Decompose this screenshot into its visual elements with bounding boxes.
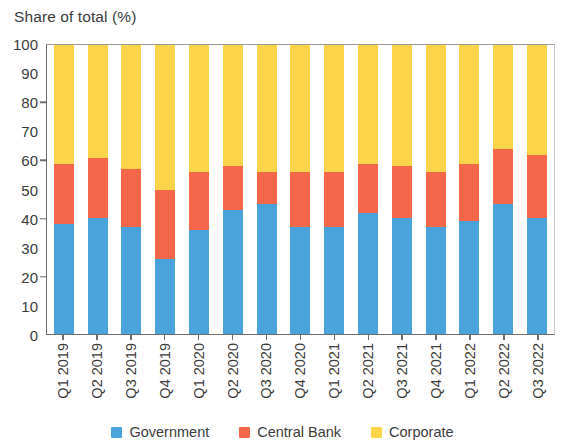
bar-column — [155, 45, 175, 334]
y-axis-tick-label: 10 — [21, 298, 38, 313]
bar-segment-corporate — [426, 45, 446, 172]
y-axis-tick-label: 80 — [21, 95, 38, 110]
x-axis-tickmark — [62, 335, 63, 340]
chart-figure: Share of total (%) 100908070605040302010… — [0, 0, 565, 447]
bar-segment-central-bank — [493, 149, 513, 204]
bar-segment-corporate — [290, 45, 310, 172]
bar-segment-central-bank — [155, 190, 175, 259]
y-axis-tick-label: 90 — [21, 66, 38, 81]
bar-segment-central-bank — [257, 172, 277, 204]
bar-column — [189, 45, 209, 334]
x-axis-label-slot: Q4 2020 — [290, 341, 310, 429]
x-axis-label-slot: Q4 2019 — [155, 341, 175, 429]
bar-segment-corporate — [189, 45, 209, 172]
x-axis-label-slot: Q3 2021 — [392, 341, 412, 429]
x-axis-label-slot: Q3 2020 — [256, 341, 276, 429]
x-axis-tick-label: Q4 2020 — [293, 343, 308, 399]
bar-column — [257, 45, 277, 334]
x-axis-tickmark — [334, 335, 335, 340]
x-axis-tick-label: Q1 2020 — [191, 343, 206, 399]
x-axis-tick-label: Q2 2019 — [90, 343, 105, 399]
bar-segment-government — [392, 218, 412, 334]
bar-segment-corporate — [121, 45, 141, 169]
x-axis-label-slot: Q2 2019 — [87, 341, 107, 429]
bar-segment-central-bank — [54, 164, 74, 225]
x-axis-label-slot: Q1 2022 — [460, 341, 480, 429]
x-axis-tick-label: Q3 2021 — [395, 343, 410, 399]
chart-legend: GovernmentCentral BankCorporate — [0, 424, 565, 440]
bar-column — [121, 45, 141, 334]
bar-segment-government — [223, 210, 243, 334]
y-axis-tick-label: 60 — [21, 153, 38, 168]
bar-segment-central-bank — [223, 166, 243, 209]
x-axis-tickmark — [198, 335, 199, 340]
bar-segment-central-bank — [392, 166, 412, 218]
x-axis-label-slot: Q4 2021 — [426, 341, 446, 429]
bar-segment-central-bank — [527, 155, 547, 219]
x-axis-tickmark — [130, 335, 131, 340]
y-axis: 1009080706050403020100 — [0, 44, 46, 335]
bar-column — [493, 45, 513, 334]
bars-layer — [47, 45, 554, 334]
bar-column — [358, 45, 378, 334]
bar-segment-corporate — [223, 45, 243, 166]
bar-segment-central-bank — [324, 172, 344, 227]
y-axis-tick-label: 30 — [21, 240, 38, 255]
bar-column — [392, 45, 412, 334]
x-axis-tickmark — [401, 335, 402, 340]
legend-item-central-bank: Central Bank — [239, 424, 341, 440]
x-axis-tickmark — [368, 335, 369, 340]
x-axis-tickmark — [503, 335, 504, 340]
x-axis-tick-label: Q1 2019 — [56, 343, 71, 399]
legend-item-corporate: Corporate — [371, 424, 453, 440]
x-axis-label-slot: Q2 2022 — [494, 341, 514, 429]
bar-segment-government — [54, 224, 74, 334]
bar-segment-central-bank — [426, 172, 446, 227]
bar-segment-government — [426, 227, 446, 334]
x-axis-tick-label: Q3 2022 — [531, 343, 546, 399]
bar-segment-corporate — [257, 45, 277, 172]
x-axis-tickmark — [469, 335, 470, 340]
bar-column — [527, 45, 547, 334]
x-axis-tick-label: Q4 2021 — [429, 343, 444, 399]
y-axis-tick-label: 20 — [21, 269, 38, 284]
bar-column — [54, 45, 74, 334]
bar-segment-corporate — [527, 45, 547, 155]
y-axis-tick-label: 100 — [13, 37, 38, 52]
legend-label: Corporate — [389, 424, 453, 440]
bar-segment-government — [493, 204, 513, 334]
bar-segment-government — [358, 213, 378, 334]
bar-segment-government — [459, 221, 479, 334]
bar-segment-central-bank — [88, 158, 108, 219]
y-axis-tick-label: 0 — [30, 328, 38, 343]
x-axis-label-slot: Q1 2021 — [324, 341, 344, 429]
bar-column — [324, 45, 344, 334]
bar-segment-government — [290, 227, 310, 334]
bar-segment-corporate — [155, 45, 175, 190]
x-axis-tickmark — [537, 335, 538, 340]
bar-segment-corporate — [358, 45, 378, 163]
bar-segment-central-bank — [459, 164, 479, 222]
bar-segment-government — [324, 227, 344, 334]
bar-segment-government — [121, 227, 141, 334]
x-axis-label-slot: Q1 2019 — [53, 341, 73, 429]
bar-segment-corporate — [324, 45, 344, 172]
x-axis-tick-label: Q1 2022 — [463, 343, 478, 399]
x-axis-tickmark — [96, 335, 97, 340]
y-axis-tick-label: 70 — [21, 124, 38, 139]
y-axis-tick-label: 50 — [21, 182, 38, 197]
bar-segment-central-bank — [358, 164, 378, 213]
x-axis-tickmark — [435, 335, 436, 340]
x-axis-tick-label: Q3 2019 — [124, 343, 139, 399]
bar-segment-central-bank — [290, 172, 310, 227]
x-axis-label-slot: Q3 2022 — [528, 341, 548, 429]
bar-column — [88, 45, 108, 334]
x-axis-tick-label: Q2 2021 — [361, 343, 376, 399]
x-axis-tickmark — [164, 335, 165, 340]
x-axis-label-slot: Q2 2021 — [358, 341, 378, 429]
x-axis-tick-label: Q2 2020 — [225, 343, 240, 399]
bar-column — [223, 45, 243, 334]
legend-swatch-icon — [371, 427, 382, 438]
x-axis-tickmark — [266, 335, 267, 340]
bar-segment-government — [155, 259, 175, 334]
